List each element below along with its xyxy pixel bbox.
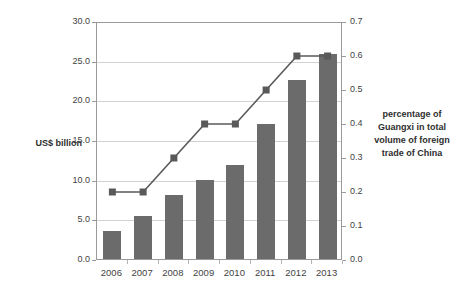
x-axis-tick-mark [311,260,312,264]
right-axis-tick-mark [342,22,346,23]
bar [226,165,244,259]
x-axis-tick-label: 2011 [250,268,281,278]
x-axis-tick-label: 2013 [311,268,342,278]
bar [319,54,337,259]
right-axis-tick-label: 0.1 [350,221,394,230]
bar [257,124,275,259]
x-axis-tick-mark [127,260,128,264]
right-axis-tick-mark [342,158,346,159]
right-axis-tick-label: 0.5 [350,85,394,94]
line-marker [293,53,300,60]
x-axis-tick-label: 2007 [127,268,158,278]
left-axis-tick-label: 15.0 [46,136,90,145]
left-axis-tick-label: 10.0 [46,176,90,185]
gridline [97,62,341,63]
left-axis-tick-label: 30.0 [46,17,90,26]
left-axis-tick-label: 25.0 [46,57,90,66]
line-marker [170,155,177,162]
x-axis-tick-mark [158,260,159,264]
right-axis-tick-label: 0.2 [350,187,394,196]
right-axis-tick-label: 0.7 [350,17,394,26]
right-axis-tick-mark [342,192,346,193]
x-axis-tick-mark [250,260,251,264]
left-axis-tick-label: 5.0 [46,215,90,224]
plot-area [96,22,342,260]
x-axis-tick-mark [219,260,220,264]
x-axis-tick-mark [281,260,282,264]
bar [134,216,152,259]
x-axis-tick-mark [188,260,189,264]
right-axis-tick-label: 0.3 [350,153,394,162]
line-marker [140,189,147,196]
x-axis-tick-label: 2010 [219,268,250,278]
line-marker [232,121,239,128]
right-axis-tick-label: 0.0 [350,255,394,264]
line-marker [109,189,116,196]
right-axis-tick-mark [342,226,346,227]
left-axis-tick-label: 20.0 [46,96,90,105]
line-marker [263,87,270,94]
x-axis-tick-label: 2006 [96,268,127,278]
chart-container: US$ billion percentage of Guangxi in tot… [0,0,456,291]
right-axis-title-line: volume of foreign [370,134,454,147]
right-axis-tick-mark [342,56,346,57]
left-axis-tick-label: 0.0 [46,255,90,264]
bar [288,80,306,259]
line-marker [201,121,208,128]
x-axis-tick-mark [342,260,343,264]
bar [165,195,183,259]
right-axis-tick-mark [342,124,346,125]
x-axis-tick-label: 2012 [281,268,312,278]
right-axis-tick-label: 0.6 [350,51,394,60]
x-axis-tick-label: 2009 [188,268,219,278]
right-axis-tick-mark [342,90,346,91]
bar [196,180,214,259]
gridline [97,22,341,23]
bar [103,231,121,259]
left-axis-tick-mark [92,260,96,261]
right-axis-tick-label: 0.4 [350,119,394,128]
x-axis-tick-label: 2008 [158,268,189,278]
